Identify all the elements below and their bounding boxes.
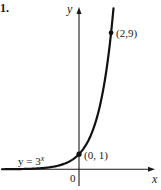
function-label-base: y = 3 xyxy=(18,155,41,167)
function-label: y = 3x xyxy=(18,154,45,167)
x-axis-arrow-icon xyxy=(148,167,155,172)
y-axis-arrow-icon xyxy=(77,7,82,14)
point-label-2-9: (2,9) xyxy=(116,27,137,40)
y-axis-label: y xyxy=(66,2,73,16)
point-label-0-1: (0, 1) xyxy=(84,149,108,162)
series-line-3-pow-x xyxy=(2,8,113,169)
origin-label: 0 xyxy=(70,172,76,184)
point-2-9 xyxy=(109,30,114,35)
exponential-graph: 1. x y 0 (0, 1) (2,9) y = 3x xyxy=(0,0,161,190)
problem-number: 1. xyxy=(0,1,9,15)
x-axis-label: x xyxy=(151,172,158,186)
point-0-1 xyxy=(76,152,81,157)
function-label-exponent: x xyxy=(40,154,45,163)
